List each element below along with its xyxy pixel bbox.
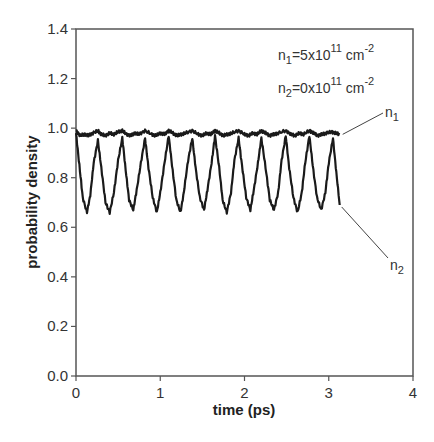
y-tick-label: 0.4: [47, 268, 68, 285]
x-tick-label: 4: [409, 384, 417, 401]
y-tick-label: 0.8: [47, 169, 68, 186]
x-axis-title: time (ps): [213, 401, 276, 418]
y-tick-label: 0.2: [47, 317, 68, 334]
series-group: [76, 129, 340, 214]
x-tick-label: 1: [156, 384, 164, 401]
y-tick-label: 0.0: [47, 367, 68, 384]
y-tick-label: 0.6: [47, 218, 68, 235]
y-tick-label: 1.0: [47, 119, 68, 136]
density-annotation-2: n2=0x1011 cm-2: [278, 75, 374, 99]
density-annotation-1: n1=5x1011 cm-2: [278, 42, 374, 66]
n1-series-label: n1: [385, 104, 399, 123]
y-tick-label: 1.4: [47, 20, 68, 37]
n2-series-label: n2: [390, 257, 404, 276]
n2-leader-line: [342, 207, 388, 258]
x-tick-label: 0: [72, 384, 80, 401]
series-labels: n1n2: [342, 104, 404, 276]
y-axis-title: probability density: [23, 135, 40, 269]
annotations: n1=5x1011 cm-2n2=0x1011 cm-2: [278, 42, 374, 99]
series-line-n2: [76, 133, 340, 214]
y-tick-label: 1.2: [47, 70, 68, 87]
chart: 0.00.20.40.60.81.01.21.4 01234 n1n2 n1=5…: [0, 0, 434, 442]
y-axis: 0.00.20.40.60.81.01.21.4: [47, 20, 76, 384]
n1-leader-line: [343, 113, 383, 134]
x-tick-label: 2: [240, 384, 248, 401]
series-line-n1: [76, 129, 340, 136]
x-tick-label: 3: [325, 384, 333, 401]
x-axis: 01234: [72, 376, 417, 401]
